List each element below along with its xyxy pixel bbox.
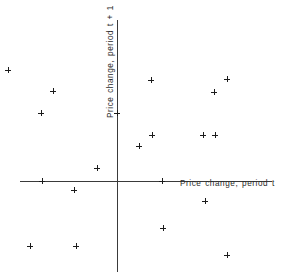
data-point [200,132,205,137]
y-axis-label: Price change, period t + 1 [106,5,115,118]
axes-group [20,20,272,272]
data-point [5,67,10,72]
data-point-group [5,67,229,257]
x-axis-label: Price change, period t [180,179,275,188]
data-point [71,187,76,192]
data-point [160,225,165,230]
data-point [73,243,78,248]
data-point [94,165,99,170]
data-point [224,76,229,81]
data-point [211,89,216,94]
data-point [50,88,55,93]
plot-canvas: Price change, period t Price change, per… [0,0,286,279]
data-point [159,178,164,183]
data-point [202,198,207,203]
data-point [114,110,119,115]
data-point [136,143,141,148]
data-point [39,178,44,183]
data-point [149,132,154,137]
data-point [148,77,153,82]
scatter-plot-figure: Price change, period t Price change, per… [0,0,286,279]
data-point [212,132,217,137]
data-point [38,110,43,115]
data-point [224,252,229,257]
data-point [27,243,32,248]
